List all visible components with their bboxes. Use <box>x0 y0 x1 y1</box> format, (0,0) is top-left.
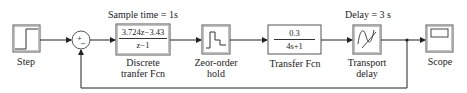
scope-label: Scope <box>418 56 462 67</box>
zoh-label-line1: Zeor-order <box>186 57 246 68</box>
fraction-bar <box>274 39 315 40</box>
delay-param: Delay = 3 s <box>345 9 391 20</box>
zoh-label-line2: hold <box>186 68 246 79</box>
step-block[interactable] <box>13 25 40 52</box>
transport-delay-label-line1: Transport <box>340 57 394 68</box>
discrete-tf-numerator: 3.724z−3.43 <box>117 27 169 37</box>
branch-point <box>405 38 408 41</box>
fraction-bar <box>119 38 167 39</box>
transfer-fcn-numerator: 0.3 <box>272 28 317 38</box>
scope-block[interactable] <box>426 25 453 52</box>
discrete-tf-label-line1: Discrete <box>113 57 173 68</box>
step-label: Step <box>6 56 46 67</box>
scope-screen-icon <box>431 29 448 37</box>
transfer-fcn-label: Transfer Fcn <box>262 58 328 69</box>
zero-order-hold-block[interactable] <box>202 25 230 54</box>
transfer-fcn-denominator: 4s+1 <box>272 41 317 51</box>
discrete-tf-expression: 3.724z−3.43 z−1 <box>117 27 169 50</box>
block-diagram: + − <box>0 0 467 93</box>
transport-delay-block[interactable] <box>353 25 381 54</box>
transport-delay-label-line2: delay <box>340 68 394 79</box>
discrete-tf-denominator: z−1 <box>117 40 169 50</box>
discrete-tf-label-line2: tranfer Fcn <box>113 68 173 79</box>
transfer-fcn-expression: 0.3 4s+1 <box>272 28 317 51</box>
sample-time-param: Sample time = 1s <box>108 9 178 20</box>
sum-block[interactable]: + − <box>72 31 90 49</box>
svg-text:−: − <box>80 40 86 48</box>
